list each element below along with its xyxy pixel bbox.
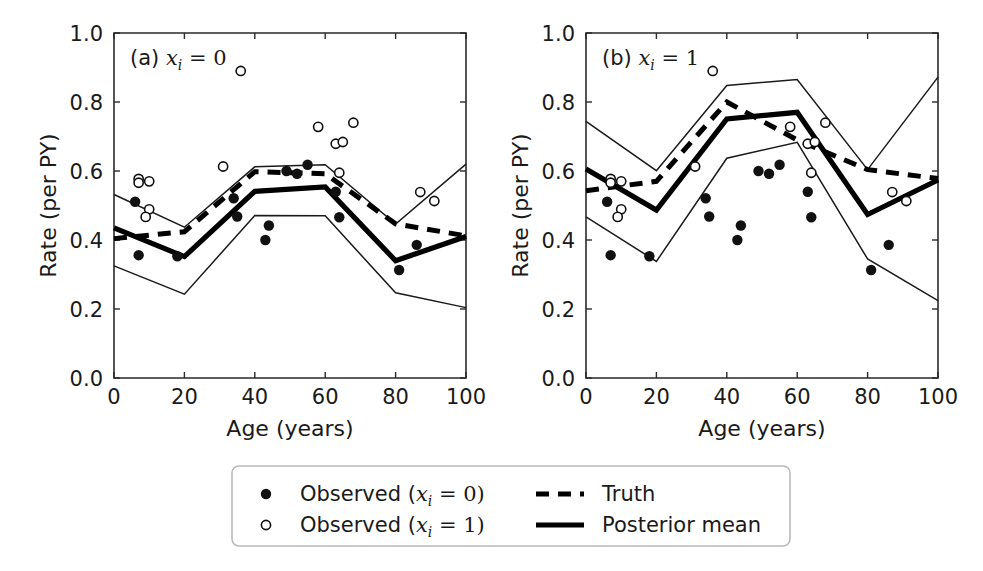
y-tick-label: 0.4 (70, 229, 103, 253)
legend-marker-filled-circle-icon (261, 489, 271, 499)
y-tick-label: 0.8 (542, 91, 575, 115)
data-point-observed-x0 (281, 166, 291, 176)
x-tick-label: 40 (713, 385, 740, 409)
data-point-observed-x0 (394, 265, 404, 275)
data-point-observed-x1 (888, 187, 897, 196)
y-axis-label: Rate (per PY) (508, 133, 533, 277)
data-point-observed-x0 (232, 211, 242, 221)
y-tick-label: 0.8 (70, 91, 103, 115)
y-tick-label: 0.0 (70, 367, 103, 391)
data-point-observed-x1 (416, 187, 425, 196)
x-tick-label: 80 (854, 385, 881, 409)
data-point-observed-x0 (605, 250, 615, 260)
data-point-observed-x1 (807, 168, 816, 177)
data-point-observed-x0 (292, 169, 302, 179)
y-axis-label: Rate (per PY) (36, 133, 61, 277)
data-point-observed-x1 (349, 118, 358, 127)
legend-label: Truth (601, 482, 655, 506)
data-point-observed-x0 (884, 240, 894, 250)
data-point-observed-x0 (806, 212, 816, 222)
figure-container: 0204060801000.00.20.40.60.81.0Age (years… (0, 0, 983, 571)
legend-marker-open-circle-icon (261, 520, 270, 529)
x-axis-label: Age (years) (226, 416, 353, 441)
legend-label: Posterior mean (602, 513, 761, 537)
data-point-observed-x1 (613, 212, 622, 221)
x-tick-label: 20 (643, 385, 670, 409)
x-tick-label: 0 (107, 385, 120, 409)
x-tick-label: 20 (171, 385, 198, 409)
data-point-observed-x1 (606, 178, 615, 187)
data-point-observed-x0 (764, 169, 774, 179)
data-point-observed-x0 (172, 251, 182, 261)
data-point-observed-x1 (141, 212, 150, 221)
chart-legend: Observed (xi = 0)Observed (xi = 1)TruthP… (232, 466, 790, 546)
chart-canvas: 0204060801000.00.20.40.60.81.0Age (years… (0, 0, 983, 571)
data-point-observed-x1 (145, 177, 154, 186)
x-tick-label: 60 (784, 385, 811, 409)
x-tick-label: 0 (579, 385, 592, 409)
data-point-observed-x1 (314, 122, 323, 131)
data-point-observed-x0 (302, 160, 312, 170)
data-point-observed-x0 (264, 220, 274, 230)
data-point-observed-x0 (644, 251, 654, 261)
data-point-observed-x1 (786, 122, 795, 131)
data-point-observed-x1 (617, 177, 626, 186)
data-point-observed-x0 (774, 160, 784, 170)
data-point-observed-x0 (133, 250, 143, 260)
data-point-observed-x1 (821, 118, 830, 127)
data-point-observed-x0 (228, 193, 238, 203)
legend-label: Observed (xi = 1) (300, 513, 485, 540)
data-point-observed-x0 (334, 212, 344, 222)
x-tick-label: 80 (382, 385, 409, 409)
data-point-observed-x1 (430, 196, 439, 205)
data-point-observed-x0 (602, 197, 612, 207)
data-point-observed-x0 (753, 166, 763, 176)
data-point-observed-x1 (691, 162, 700, 171)
data-point-observed-x1 (219, 162, 228, 171)
data-point-observed-x0 (130, 197, 140, 207)
data-point-observed-x0 (260, 235, 270, 245)
data-point-observed-x0 (803, 187, 813, 197)
data-point-observed-x0 (412, 240, 422, 250)
y-tick-label: 1.0 (542, 22, 575, 46)
data-point-observed-x0 (736, 220, 746, 230)
data-point-observed-x0 (732, 235, 742, 245)
data-point-observed-x0 (700, 193, 710, 203)
x-tick-label: 60 (312, 385, 339, 409)
data-point-observed-x0 (704, 211, 714, 221)
data-point-observed-x0 (331, 187, 341, 197)
data-point-observed-x1 (134, 178, 143, 187)
y-tick-label: 0.2 (70, 298, 103, 322)
x-tick-label: 40 (241, 385, 268, 409)
x-axis-label: Age (years) (698, 416, 825, 441)
y-tick-label: 0.2 (542, 298, 575, 322)
data-point-observed-x1 (338, 137, 347, 146)
y-tick-label: 0.6 (542, 160, 575, 184)
y-tick-label: 0.6 (70, 160, 103, 184)
data-point-observed-x1 (902, 196, 911, 205)
data-point-observed-x1 (236, 66, 245, 75)
y-tick-label: 1.0 (70, 22, 103, 46)
data-point-observed-x1 (810, 137, 819, 146)
y-tick-label: 0.4 (542, 229, 575, 253)
x-tick-label: 100 (918, 385, 958, 409)
data-point-observed-x0 (866, 265, 876, 275)
y-tick-label: 0.0 (542, 367, 575, 391)
data-point-observed-x1 (708, 66, 717, 75)
legend-label: Observed (xi = 0) (300, 482, 485, 509)
x-tick-label: 100 (446, 385, 486, 409)
data-point-observed-x1 (335, 168, 344, 177)
